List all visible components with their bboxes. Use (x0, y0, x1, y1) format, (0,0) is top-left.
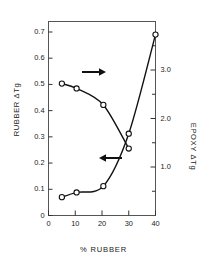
y-tick-label: 0.7 (19, 27, 45, 36)
x-axis-title: % RUBBER (0, 245, 207, 254)
x-tick-label: 0 (39, 219, 59, 228)
annotation-arrows (82, 68, 122, 162)
left-axis-title: RUBBER ΔTg (12, 50, 21, 170)
x-tick-label: 40 (146, 219, 166, 228)
y2-tick-label: 3.0 (161, 65, 187, 74)
y-tick-label: 0.1 (19, 184, 45, 193)
y2-tick-label: 1.0 (161, 162, 187, 171)
y-tick-label: 0.5 (19, 79, 45, 88)
x-axis-ticks (49, 211, 156, 216)
right-axis-ticks (151, 46, 156, 192)
right-axis-title: EPOXY ΔTg (189, 87, 198, 207)
y-tick-label: 0.6 (19, 53, 45, 62)
left-axis-ticks (49, 32, 53, 216)
data-curves (62, 35, 156, 198)
y-tick-label: 0.2 (19, 158, 45, 167)
x-tick-label: 20 (92, 219, 112, 228)
arrow-right-icon (82, 68, 106, 76)
y-tick-label: 0.4 (19, 106, 45, 115)
x-tick-label: 10 (65, 219, 85, 228)
chart-figure: 00.10.20.30.40.50.60.7 1.02.03.0 0102030… (0, 0, 207, 267)
x-tick-label: 30 (119, 219, 139, 228)
y-tick-label: 0.3 (19, 132, 45, 141)
data-markers (59, 32, 158, 200)
y2-tick-label: 2.0 (161, 114, 187, 123)
